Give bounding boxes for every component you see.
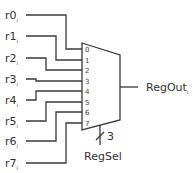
input-label-r0: r0i	[5, 9, 18, 23]
input-label-r2: r2i	[5, 52, 18, 66]
select-label-regsel: RegSel	[84, 150, 122, 163]
wire-r0	[26, 15, 82, 49]
input-label-r1: r1i	[5, 30, 18, 44]
pin-label-3: 3	[85, 78, 89, 86]
output-label-regout: RegOuti	[146, 81, 188, 95]
wire-r3	[26, 79, 82, 81]
pin-label-0: 0	[85, 46, 89, 54]
pin-label-1: 1	[85, 57, 89, 65]
pin-label-5: 5	[85, 99, 89, 107]
input-label-r4: r4i	[5, 94, 18, 108]
wire-r6	[26, 112, 82, 141]
pin-label-6: 6	[85, 109, 90, 117]
wire-r4	[26, 91, 82, 100]
input-label-r5: r5i	[5, 115, 18, 129]
pin-label-4: 4	[85, 88, 90, 96]
wire-r1	[26, 36, 82, 60]
input-label-r6: r6i	[5, 135, 18, 149]
bus-width-label: 3	[107, 130, 114, 143]
input-label-r7: r7i	[5, 157, 18, 171]
pin-label-2: 2	[85, 67, 89, 75]
input-label-r3: r3i	[5, 73, 18, 87]
wire-r7	[26, 123, 82, 163]
mux-diagram: 0 1 2 3 4 5 6 7 r0i r1i r2i r3i r4i r5i …	[0, 0, 193, 173]
pin-label-7: 7	[85, 120, 89, 128]
